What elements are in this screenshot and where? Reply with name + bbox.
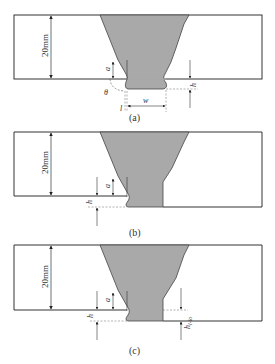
thickness-label: 20mm — [40, 34, 50, 57]
weld-cross-section-figure: 20mm a θ l w h (a) 20mm a h (b) — [0, 0, 275, 364]
label-a: a — [103, 184, 112, 188]
caption-a: (a) — [129, 112, 140, 124]
weld-bead — [100, 15, 189, 89]
label-h: h — [189, 83, 198, 87]
theta-arc — [110, 79, 124, 91]
label-w: w — [143, 96, 149, 105]
thickness-label: 20mm — [40, 265, 50, 288]
label-h-l-lo: hl-lo — [183, 317, 193, 329]
panel-a: 20mm a θ l w h (a) — [14, 15, 262, 124]
label-a: a — [103, 67, 112, 71]
label-h: h — [85, 200, 94, 204]
thickness-label: 20mm — [40, 151, 50, 174]
label-a: a — [103, 298, 112, 302]
panel-c: 20mm a h hl-lo (c) — [14, 245, 262, 357]
caption-b: (b) — [129, 227, 141, 239]
label-l: l — [120, 104, 123, 113]
label-h: h — [86, 314, 95, 318]
caption-c: (c) — [129, 345, 140, 357]
label-theta: θ — [104, 88, 108, 97]
panel-b: 20mm a h (b) — [14, 132, 262, 239]
